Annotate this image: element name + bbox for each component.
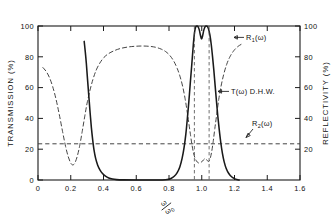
x-tick-label: 0.6 (131, 184, 142, 193)
y-tick-label: 20 (25, 145, 34, 154)
y-axis-left-title: TRANSMISSION (%) (6, 59, 15, 147)
annotation-r1: R1(ω) (234, 33, 267, 43)
y2-tick-label: 20 (304, 145, 313, 154)
y2-tick-label: 40 (304, 114, 313, 123)
y-tick-label: 40 (25, 114, 34, 123)
transmission-reflectivity-chart: 00.20.40.60.81.01.21.41.6 020406080100 2… (0, 0, 335, 222)
x-tick-label: 1.2 (229, 184, 240, 193)
annotation-r2: R2(ω) (246, 119, 273, 138)
y-axis-right-tick-labels: 20406080100 (304, 22, 318, 154)
annotation-r2-label: R2(ω) (252, 119, 273, 129)
y-tick-label: 0 (29, 176, 34, 185)
y-tick-label: 80 (25, 53, 34, 62)
y2-tick-label: 80 (304, 53, 313, 62)
y-tick-label: 100 (20, 22, 34, 31)
x-tick-label: 0 (36, 184, 41, 193)
x-axis-tick-labels: 00.20.40.60.81.01.21.41.6 (36, 184, 306, 193)
top-axis-ticks (38, 26, 300, 31)
x-tick-label: 0.4 (98, 184, 109, 193)
figure-container: 00.20.40.60.81.01.21.41.6 020406080100 2… (0, 0, 335, 222)
y2-tick-label: 60 (304, 83, 313, 92)
annotation-t: T(ω) D.H.W. (218, 87, 275, 96)
y-axis-right-ticks (295, 26, 300, 149)
x-tick-label: 1.6 (294, 184, 305, 193)
plot-frame (38, 26, 300, 180)
vertical-marker-lines (194, 26, 209, 180)
y-tick-label: 60 (25, 83, 34, 92)
annotation-t-label: T(ω) D.H.W. (231, 87, 275, 96)
annotation-r1-label: R1(ω) (246, 33, 267, 43)
x-tick-label: 1.0 (196, 184, 207, 193)
y2-tick-label: 100 (304, 22, 318, 31)
data-curves (38, 26, 300, 180)
y-axis-left-ticks (38, 26, 43, 180)
x-tick-label: 0.2 (65, 184, 76, 193)
y-axis-left-tick-labels: 020406080100 (20, 22, 34, 185)
y-axis-right-title: REFLECTIVITY (%) (321, 61, 330, 144)
x-tick-label: 1.4 (262, 184, 273, 193)
x-axis-title: ω ω0 (156, 196, 177, 218)
x-tick-label: 0.8 (163, 184, 174, 193)
